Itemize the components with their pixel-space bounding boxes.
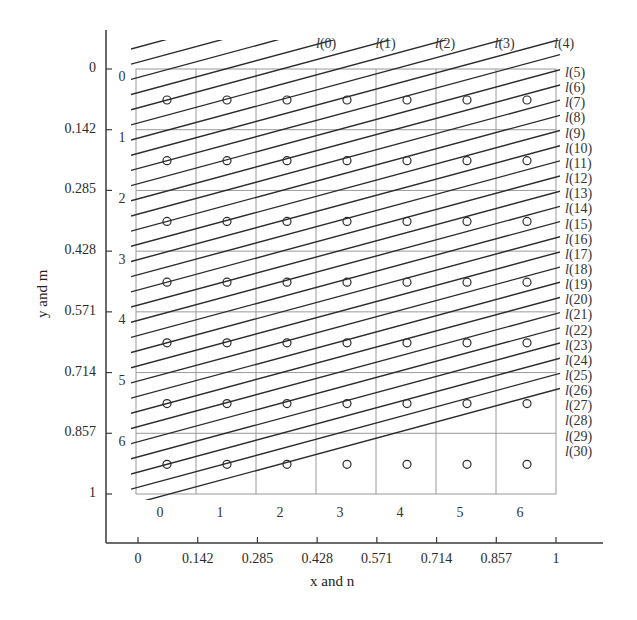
line-label-top: l(1)	[376, 36, 396, 52]
line-label-right: l(16)	[565, 232, 592, 248]
line-label-right: l(22)	[565, 323, 592, 339]
line-label-right: l(5)	[565, 65, 585, 81]
diagonal-line	[131, 0, 560, 3]
lattice-point	[463, 460, 471, 468]
lattice-point	[283, 339, 291, 347]
line-label-right: l(7)	[565, 95, 585, 111]
line-label-right: l(21)	[565, 307, 592, 323]
line-label-right: l(15)	[565, 217, 592, 233]
row-label: 2	[112, 191, 132, 207]
line-label-right: l(27)	[565, 398, 592, 414]
line-label-right: l(29)	[565, 429, 592, 445]
lattice-point	[523, 339, 531, 347]
y-tick-label: 0.285	[36, 181, 96, 197]
y-tick-label: 1	[36, 485, 96, 501]
lattice-point	[343, 460, 351, 468]
lattice-point	[403, 217, 411, 225]
x-tick-label: 0.428	[287, 551, 347, 567]
row-label: 4	[112, 312, 132, 328]
lattice-point	[283, 217, 291, 225]
column-label: 6	[510, 505, 530, 521]
lattice-point	[403, 278, 411, 286]
lattice-point	[523, 460, 531, 468]
line-label-right: l(17)	[565, 247, 592, 263]
line-label-right: l(8)	[565, 110, 585, 126]
x-tick-label: 0	[108, 551, 168, 567]
lattice-point	[463, 217, 471, 225]
line-label-right: l(30)	[565, 444, 592, 460]
lattice-point	[403, 339, 411, 347]
lattice-point	[463, 96, 471, 104]
diagonal-line	[131, 0, 560, 64]
lattice-point	[523, 278, 531, 286]
x-tick-label: 0.714	[407, 551, 467, 567]
column-label: 0	[150, 505, 170, 521]
line-label-right: l(10)	[565, 141, 592, 157]
x-tick-label: 0.857	[466, 551, 526, 567]
lattice-point	[523, 96, 531, 104]
row-label: 0	[112, 69, 132, 85]
y-tick-label: 0.428	[36, 242, 96, 258]
line-label-right: l(19)	[565, 277, 592, 293]
lattice-point	[283, 460, 291, 468]
y-axis-title: y and m	[34, 270, 51, 318]
y-tick-label: 0.857	[36, 424, 96, 440]
line-label-right: l(20)	[565, 292, 592, 308]
row-label: 3	[112, 252, 132, 268]
line-label-right: l(24)	[565, 353, 592, 369]
lattice-point	[463, 278, 471, 286]
row-label: 1	[112, 130, 132, 146]
column-label: 4	[390, 505, 410, 521]
column-label: 5	[450, 505, 470, 521]
line-label-right: l(11)	[565, 156, 592, 172]
column-label: 1	[210, 505, 230, 521]
line-label-right: l(13)	[565, 186, 592, 202]
line-label-top: l(2)	[435, 36, 455, 52]
lattice-point	[523, 217, 531, 225]
y-tick-label: 0	[36, 60, 96, 76]
lattice-point	[283, 96, 291, 104]
line-label-right: l(12)	[565, 171, 592, 187]
line-label-top: l(4)	[554, 36, 574, 52]
line-label-top: l(0)	[316, 36, 336, 52]
lattice-point	[523, 400, 531, 408]
lattice-point	[403, 157, 411, 165]
x-tick-label: 1	[526, 551, 586, 567]
lattice-point	[463, 339, 471, 347]
row-label: 5	[112, 373, 132, 389]
x-tick-label: 0.285	[227, 551, 287, 567]
diagonal-line	[131, 0, 560, 19]
lattice-point	[403, 460, 411, 468]
line-label-right: l(25)	[565, 368, 592, 384]
lattice-point	[463, 157, 471, 165]
line-label-top: l(3)	[495, 36, 515, 52]
line-label-right: l(23)	[565, 338, 592, 354]
row-label: 6	[112, 434, 132, 450]
line-label-right: l(14)	[565, 201, 592, 217]
x-tick-label: 0.571	[347, 551, 407, 567]
line-label-right: l(6)	[565, 80, 585, 96]
y-tick-label: 0.714	[36, 364, 96, 380]
lattice-point	[283, 157, 291, 165]
line-label-right: l(18)	[565, 262, 592, 278]
lattice-point	[463, 400, 471, 408]
lattice-point	[403, 400, 411, 408]
diagonal-line	[131, 0, 560, 34]
lattice-point	[403, 96, 411, 104]
lattice-point	[523, 157, 531, 165]
lattice-point	[283, 400, 291, 408]
column-label: 2	[270, 505, 290, 521]
line-label-right: l(28)	[565, 413, 592, 429]
lattice-point	[283, 278, 291, 286]
x-tick-label: 0.142	[168, 551, 228, 567]
line-label-right: l(9)	[565, 126, 585, 142]
lattice-points	[163, 96, 531, 468]
y-tick-label: 0.142	[36, 121, 96, 137]
x-axis-title: x and n	[310, 573, 354, 590]
column-label: 3	[330, 505, 350, 521]
line-label-right: l(26)	[565, 383, 592, 399]
